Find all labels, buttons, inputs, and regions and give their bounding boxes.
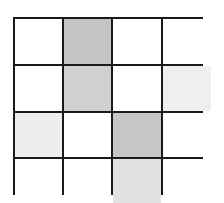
grid-cell-r2-c1: [64, 113, 111, 157]
grid-cell-r0-c0: [15, 19, 62, 64]
grid-cell-r3-c3: [163, 159, 211, 203]
grid-cell-r1-c2: [113, 66, 161, 111]
grid-cell-r1-c3: [163, 66, 211, 111]
grid-cell-r0-c3: [163, 19, 211, 64]
grid-cell-r2-c2: [113, 113, 161, 157]
grid-cell-r3-c1: [64, 159, 111, 203]
grid-cell-r1-c1: [64, 66, 111, 111]
grid-cell-r2-c3: [163, 113, 211, 157]
grid-cell-r2-c0: [15, 113, 62, 157]
grid-cell-r3-c2: [113, 159, 161, 203]
grid-cell-r0-c1: [64, 19, 111, 64]
shaded-grid: [13, 17, 203, 195]
grid-cell-r0-c2: [113, 19, 161, 64]
grid-cell-r3-c0: [15, 159, 62, 203]
grid-cell-r1-c0: [15, 66, 62, 111]
